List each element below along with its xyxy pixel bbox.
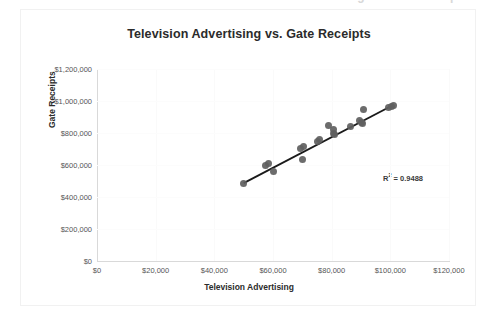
y-axis-tick-label: $400,000 bbox=[61, 193, 92, 202]
gridline-horizontal bbox=[97, 229, 449, 230]
gridline-horizontal bbox=[97, 197, 449, 198]
data-point bbox=[390, 102, 397, 109]
x-axis-tick-label: $100,000 bbox=[375, 266, 406, 275]
cropped-header-label: Television Advertising vs. Gate Receipts bbox=[238, 0, 468, 3]
y-axis-tick-label: $200,000 bbox=[61, 225, 92, 234]
data-point bbox=[265, 160, 272, 167]
data-point bbox=[359, 120, 366, 127]
data-point bbox=[300, 143, 307, 150]
data-point bbox=[270, 168, 277, 175]
x-axis-line bbox=[97, 261, 450, 262]
data-point bbox=[316, 136, 323, 143]
x-axis-tick-label: $20,000 bbox=[142, 266, 169, 275]
gridline-horizontal bbox=[97, 133, 449, 134]
y-axis-tick-label: $0 bbox=[84, 257, 92, 266]
x-axis-tick-label: $60,000 bbox=[259, 266, 286, 275]
data-point bbox=[347, 123, 354, 130]
data-point bbox=[360, 106, 367, 113]
x-axis-tick-label: $40,000 bbox=[201, 266, 228, 275]
gridline-horizontal bbox=[97, 101, 449, 102]
chart-title: Television Advertising vs. Gate Receipts bbox=[21, 27, 477, 41]
chart-container: Television Advertising vs. Gate Receipts… bbox=[20, 9, 476, 306]
data-point bbox=[240, 180, 247, 187]
x-axis-tick-label: $0 bbox=[93, 266, 101, 275]
gridline-vertical bbox=[449, 69, 450, 261]
x-axis-tick-label: $120,000 bbox=[433, 266, 464, 275]
gridline-horizontal bbox=[97, 165, 449, 166]
y-axis-tick-label: $1,200,000 bbox=[54, 65, 92, 74]
y-axis-tick-label: $800,000 bbox=[61, 129, 92, 138]
y-axis-tick-label: $600,000 bbox=[61, 161, 92, 170]
cropped-header-text: Television Advertising vs. Gate Receipts bbox=[0, 0, 496, 9]
x-axis-title: Television Advertising bbox=[21, 282, 477, 292]
y-axis-tick-label: $1,000,000 bbox=[54, 97, 92, 106]
plot-area: $0$200,000$400,000$600,000$800,000$1,000… bbox=[97, 69, 449, 261]
data-point bbox=[299, 156, 306, 163]
gridline-horizontal bbox=[97, 69, 449, 70]
x-axis-tick-label: $80,000 bbox=[318, 266, 345, 275]
data-point bbox=[331, 131, 338, 138]
